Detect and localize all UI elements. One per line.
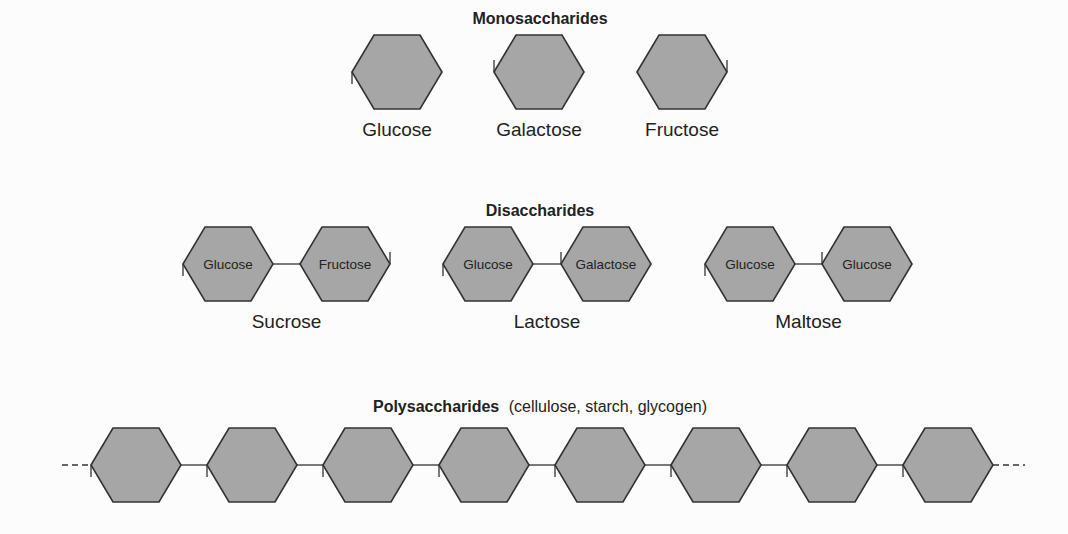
disaccharide-label: Maltose (775, 311, 842, 332)
unit-label: Glucose (842, 257, 892, 272)
unit-label: Glucose (725, 257, 775, 272)
polysaccharide-unit (787, 428, 903, 502)
monosaccharide-glucose: Glucose (352, 35, 442, 140)
hexagon-ring (91, 428, 181, 502)
disaccharides-title: Disaccharides (486, 202, 595, 219)
polysaccharides-title: Polysaccharides (373, 398, 499, 415)
unit-label: Galactose (576, 257, 637, 272)
disaccharide-sucrose: GlucoseFructoseSucrose (183, 227, 390, 332)
monosaccharide-fructose: Fructose (637, 35, 727, 140)
monosaccharides-section: Monosaccharides GlucoseGalactoseFructose (352, 10, 727, 140)
carbohydrate-diagram: Monosaccharides GlucoseGalactoseFructose… (0, 0, 1068, 534)
monosaccharide-label: Fructose (645, 119, 719, 140)
unit-label: Glucose (463, 257, 513, 272)
polysaccharide-unit (903, 428, 993, 502)
hexagon-ring (903, 428, 993, 502)
polysaccharide-unit (671, 428, 787, 502)
polysaccharide-unit (207, 428, 323, 502)
disaccharide-maltose: GlucoseGlucoseMaltose (705, 227, 912, 332)
polysaccharides-subtitle: (cellulose, starch, glycogen) (509, 398, 707, 415)
hexagon-ring (671, 428, 761, 502)
monosaccharide-label: Glucose (362, 119, 432, 140)
hexagon-ring (439, 428, 529, 502)
hexagon-ring (555, 428, 645, 502)
polysaccharides-section: Polysaccharides (cellulose, starch, glyc… (62, 398, 1025, 502)
hexagon-ring (323, 428, 413, 502)
disaccharide-label: Lactose (514, 311, 581, 332)
unit-label: Fructose (319, 257, 372, 272)
unit-label: Glucose (203, 257, 253, 272)
disaccharide-lactose: GlucoseGalactoseLactose (443, 227, 651, 332)
polysaccharide-unit (555, 428, 671, 502)
polysaccharide-unit (439, 428, 555, 502)
polysaccharides-heading: Polysaccharides (cellulose, starch, glyc… (373, 398, 707, 415)
disaccharides-section: Disaccharides GlucoseFructoseSucroseGluc… (183, 202, 912, 332)
hexagon-ring (207, 428, 297, 502)
polysaccharide-unit (323, 428, 439, 502)
hexagon-ring (352, 35, 442, 109)
monosaccharide-galactose: Galactose (494, 35, 584, 140)
monosaccharide-label: Galactose (496, 119, 582, 140)
disaccharide-label: Sucrose (252, 311, 322, 332)
hexagon-ring (494, 35, 584, 109)
polysaccharide-unit (91, 428, 207, 502)
hexagon-ring (787, 428, 877, 502)
hexagon-ring (637, 35, 727, 109)
monosaccharides-title: Monosaccharides (472, 10, 607, 27)
